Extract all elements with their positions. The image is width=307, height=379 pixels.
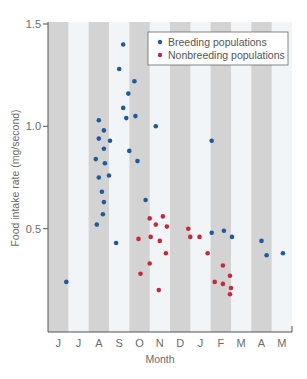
data-point [212,280,217,285]
data-point [209,138,214,143]
data-point [102,128,107,133]
data-point [228,292,233,297]
data-point [148,235,153,240]
data-point [147,216,152,221]
data-point [154,222,159,227]
data-point [124,116,129,121]
x-tick-label: J [198,337,204,349]
data-point [161,214,166,219]
data-point [221,282,226,287]
data-point [229,286,234,291]
month-stripe [170,22,190,332]
data-point [165,224,170,229]
data-point [264,253,269,258]
data-point [230,235,235,240]
month-stripe [48,22,68,332]
x-tick-label: A [95,337,103,349]
x-tick-label: M [237,337,246,349]
data-point [154,124,159,129]
x-tick-label: J [76,337,82,349]
x-tick-label: N [156,337,164,349]
month-stripe [251,22,271,332]
x-tick-label: O [135,337,144,349]
scatter-chart: 0.51.01.5 JJASONDJFMAM Month Food intake… [0,0,307,379]
data-point [117,67,122,72]
month-stripe [211,22,231,332]
y-tick-label: 1.0 [26,120,41,132]
data-point [197,235,202,240]
data-point [157,288,162,293]
data-point [135,159,140,164]
data-point [103,161,108,166]
data-point [127,149,132,154]
x-tick-label: F [217,337,224,349]
x-tick-label: M [277,337,286,349]
data-point [164,251,169,256]
data-point [158,239,163,244]
data-point [186,226,191,231]
data-point [97,175,102,180]
y-tick-label: 0.5 [26,223,41,235]
data-point [100,190,105,195]
legend-breeding-label: Breeding populations [168,36,267,48]
data-point [121,106,126,111]
legend-breeding-marker-icon [158,40,162,44]
data-point [209,231,214,236]
x-axis-labels: JJASONDJFMAM [55,337,286,349]
data-point [126,91,131,96]
data-point [228,273,233,278]
data-point [95,222,100,227]
data-point [108,138,113,143]
data-point [221,263,226,268]
data-point [138,271,143,276]
data-point [222,228,227,233]
data-point [259,239,264,244]
data-point [114,241,119,246]
data-point [102,200,107,205]
data-point [188,235,193,240]
legend-nonbreeding-label: Nonbreeding populations [168,49,285,61]
data-point [132,79,137,84]
y-axis-title: Food intake rate (mg/second) [9,109,21,246]
data-point [97,136,102,141]
data-point [107,173,112,178]
x-tick-label: D [176,337,184,349]
y-tick-label: 1.5 [26,18,41,30]
month-stripe [129,22,149,332]
legend: Breeding populations Nonbreeding populat… [148,32,288,65]
data-point [64,280,69,285]
data-point [136,237,141,242]
y-axis-ticks: 0.51.01.5 [26,18,48,235]
data-point [97,118,102,123]
month-stripes [48,22,292,332]
data-point [133,114,138,119]
x-tick-label: J [55,337,61,349]
data-point [147,261,152,266]
data-point [205,251,210,256]
data-point [101,212,106,217]
data-point [121,42,126,47]
data-point [102,147,107,152]
x-tick-label: A [258,337,266,349]
data-point [94,157,99,162]
data-point [143,198,148,203]
legend-nonbreeding-marker-icon [158,53,162,57]
data-point [281,251,286,256]
x-axis-title: Month [145,353,174,365]
x-tick-label: S [115,337,122,349]
